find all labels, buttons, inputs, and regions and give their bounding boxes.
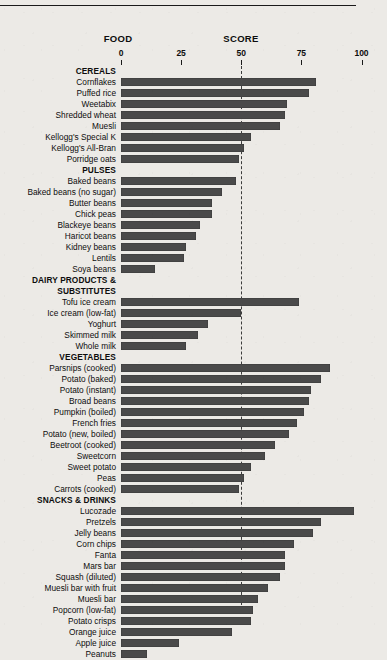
bar: [121, 155, 239, 163]
bar-row: Fanta: [0, 550, 387, 561]
bar-row-label: Carrots (cooked): [0, 484, 116, 494]
bar-row-label: Corn chips: [0, 539, 116, 549]
bar: [121, 573, 280, 581]
group-heading-row: CEREALS: [0, 66, 387, 77]
bar: [121, 221, 200, 229]
bar-row: Weetabix: [0, 99, 387, 110]
bar-row-label: Tofu ice cream: [0, 297, 116, 307]
bar-row: Muesli bar: [0, 594, 387, 605]
bar: [121, 243, 186, 251]
bar-row: Whole milk: [0, 341, 387, 352]
bar-row-label: Whole milk: [0, 341, 116, 351]
bar: [121, 584, 268, 592]
axis-tick-label-0: 0: [119, 48, 124, 58]
group-heading-row: PULSES: [0, 165, 387, 176]
x-axis: 0255075100: [0, 48, 387, 66]
bar: [121, 188, 222, 196]
group-heading-label: CEREALS: [0, 66, 116, 76]
bar-row: Apple juice: [0, 638, 387, 649]
bar-row: Potato (instant): [0, 385, 387, 396]
bar: [121, 430, 289, 438]
bar-row-label: Beetroot (cooked): [0, 440, 116, 450]
bar: [121, 397, 309, 405]
bar-row: Baked beans: [0, 176, 387, 187]
bar-row-label: Muesli bar: [0, 594, 116, 604]
bar-row: French fries: [0, 418, 387, 429]
bar: [121, 441, 275, 449]
bar: [121, 298, 299, 306]
top-divider-rule: [0, 5, 356, 6]
bar-row: Squash (diluted): [0, 572, 387, 583]
bar: [121, 551, 285, 559]
bar-row: Ice cream (low-fat): [0, 308, 387, 319]
bar-row: Corn chips: [0, 539, 387, 550]
bar-row: Kellogg's All-Bran: [0, 143, 387, 154]
bar-row: Blackeye beans: [0, 220, 387, 231]
bar-row: Pumpkin (boiled): [0, 407, 387, 418]
bar-row-label: Shredded wheat: [0, 110, 116, 120]
bar: [121, 133, 251, 141]
bar-row: Kidney beans: [0, 242, 387, 253]
bar: [121, 639, 179, 647]
bar: [121, 628, 232, 636]
bar-row-label: Muesli bar with fruit: [0, 583, 116, 593]
bar-row: Potato crisps: [0, 616, 387, 627]
bar: [121, 419, 297, 427]
bar-row: Beetroot (cooked): [0, 440, 387, 451]
bar-row: Haricot beans: [0, 231, 387, 242]
bar-row-label: Porridge oats: [0, 154, 116, 164]
bar-row: Orange juice: [0, 627, 387, 638]
bar: [121, 199, 212, 207]
bar: [121, 452, 265, 460]
bar: [121, 518, 321, 526]
bar-row: Puffed rice: [0, 88, 387, 99]
bar-row-label: Kidney beans: [0, 242, 116, 252]
group-heading-row: SUBSTITUTES: [0, 286, 387, 297]
bar: [121, 144, 244, 152]
bar-row: Carrots (cooked): [0, 484, 387, 495]
group-heading-label: VEGETABLES: [0, 352, 116, 362]
axis-tick-label-50: 50: [237, 48, 246, 58]
bar-chart-body: CEREALSCornflakesPuffed riceWeetabixShre…: [0, 66, 387, 660]
group-heading-label: SNACKS & DRINKS: [0, 495, 116, 505]
bar-row-label: Butter beans: [0, 198, 116, 208]
bar: [121, 529, 313, 537]
bar: [121, 463, 251, 471]
bar-row-label: Cornflakes: [0, 77, 116, 87]
column-header-food: FOOD: [88, 33, 148, 44]
bar-row: Pretzels: [0, 517, 387, 528]
axis-tick-label-100: 100: [354, 48, 368, 58]
bar: [121, 617, 251, 625]
group-heading-row: SNACKS & DRINKS: [0, 495, 387, 506]
bar-row-label: Haricot beans: [0, 231, 116, 241]
bar: [121, 507, 354, 515]
bar-row-label: Popcorn (low-fat): [0, 605, 116, 615]
bar-row: Lucozade: [0, 506, 387, 517]
group-heading-label: SUBSTITUTES: [0, 286, 116, 296]
bar-row: Yoghurt: [0, 319, 387, 330]
group-heading-row: DAIRY PRODUCTS &: [0, 275, 387, 286]
bar-row: Muesli bar with fruit: [0, 583, 387, 594]
bar-row-label: Potato crisps: [0, 616, 116, 626]
bar-row-label: Mars bar: [0, 561, 116, 571]
bar-row: Skimmed milk: [0, 330, 387, 341]
bar-row-label: French fries: [0, 418, 116, 428]
bar: [121, 78, 316, 86]
bar: [121, 364, 330, 372]
bar-row-label: Potato (baked): [0, 374, 116, 384]
axis-tick-mark-25: [181, 60, 182, 65]
bar: [121, 375, 321, 383]
bar: [121, 320, 208, 328]
bar-row: Tofu ice cream: [0, 297, 387, 308]
bar-row-label: Squash (diluted): [0, 572, 116, 582]
bar-row-label: Peas: [0, 473, 116, 483]
column-header-score: SCORE: [211, 33, 271, 44]
bar-row: Baked beans (no sugar): [0, 187, 387, 198]
bar: [121, 606, 253, 614]
bar: [121, 210, 212, 218]
bar-row-label: Blackeye beans: [0, 220, 116, 230]
bar-row: Soya beans: [0, 264, 387, 275]
bar: [121, 265, 155, 273]
bar-row-label: Jelly beans: [0, 528, 116, 538]
